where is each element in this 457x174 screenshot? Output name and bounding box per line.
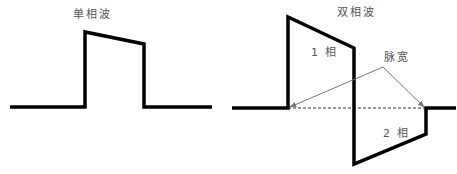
monophasic-title: 单相波 bbox=[73, 5, 112, 21]
arrow bbox=[290, 67, 383, 107]
waveform-diagram bbox=[0, 0, 457, 174]
biphasic-title: 双相波 bbox=[337, 3, 376, 19]
pulse-width-label: 脉宽 bbox=[384, 48, 410, 64]
biphasic-waveform bbox=[232, 17, 456, 164]
monophasic-waveform bbox=[10, 32, 212, 107]
phase-2-label: 2 相 bbox=[383, 124, 411, 140]
pulse-width-arrows bbox=[290, 67, 424, 107]
arrow bbox=[383, 67, 424, 107]
phase-1-label: 1 相 bbox=[311, 43, 339, 59]
